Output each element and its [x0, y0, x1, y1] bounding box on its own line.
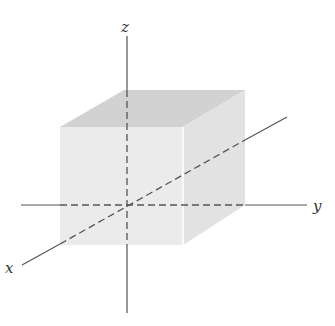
cube-front-face	[60, 127, 183, 245]
x-axis-back	[245, 117, 287, 140]
z-axis-label: z	[120, 18, 129, 36]
diagram-canvas: z y x	[0, 0, 335, 326]
x-axis-label: x	[5, 259, 14, 277]
y-axis-label: y	[312, 197, 322, 215]
cube-axes-diagram: z y x	[0, 0, 335, 326]
x-axis-front	[22, 244, 60, 265]
